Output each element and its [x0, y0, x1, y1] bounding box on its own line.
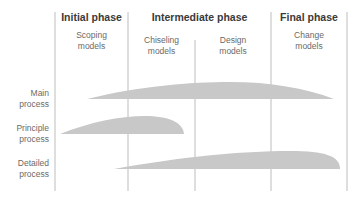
- phase-title-intermediate: Intermediate phase: [128, 11, 271, 23]
- model-label-line: models: [128, 46, 195, 57]
- model-label-line: models: [55, 41, 128, 52]
- row-label-line: process: [1, 99, 49, 110]
- detailed-process-shape: [114, 151, 340, 169]
- row-label-main-process: Main process: [1, 88, 49, 110]
- row-label-line: Principle: [1, 123, 49, 134]
- model-label-scoping: Scoping models: [55, 30, 128, 52]
- model-label-chiseling: Chiseling models: [128, 35, 195, 57]
- model-label-line: models: [195, 46, 271, 57]
- model-label-line: Scoping: [55, 30, 128, 41]
- model-label-change: Change models: [271, 30, 347, 52]
- row-label-line: process: [1, 169, 49, 180]
- model-label-line: Change: [271, 30, 347, 41]
- model-label-line: Design: [195, 35, 271, 46]
- model-label-line: Chiseling: [128, 35, 195, 46]
- row-label-line: Detailed: [1, 158, 49, 169]
- phase-title-initial: Initial phase: [55, 11, 128, 23]
- phase-title-final: Final phase: [271, 11, 347, 23]
- model-label-design: Design models: [195, 35, 271, 57]
- row-label-principle-process: Principle process: [1, 123, 49, 145]
- model-label-line: models: [271, 41, 347, 52]
- main-process-shape: [87, 82, 334, 99]
- principle-process-shape: [60, 116, 184, 134]
- row-label-line: Main: [1, 88, 49, 99]
- row-label-line: process: [1, 134, 49, 145]
- row-label-detailed-process: Detailed process: [1, 158, 49, 180]
